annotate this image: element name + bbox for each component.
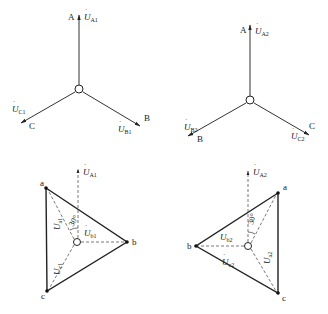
vertex-label-c: c <box>41 291 45 301</box>
dot-accent: · <box>221 226 223 234</box>
vertex-label-b: b <box>132 237 137 247</box>
vertex-b <box>194 244 198 248</box>
star-diagram-2: A UA2 · UB2 · B C UC2 · <box>184 20 315 144</box>
dot-accent: · <box>84 161 86 169</box>
phase-label-b: B <box>197 134 203 144</box>
vertex-b <box>125 240 129 244</box>
vertex-a <box>276 191 280 195</box>
vertex-c <box>276 291 280 295</box>
angle-arc <box>248 232 255 234</box>
vertex-c <box>45 289 49 293</box>
phasor-diagram: A UA1 · UC1 · C B UB1 · A UA2 · UB2 · B … <box>0 0 328 314</box>
delta-triangle-2 <box>196 193 278 293</box>
dot-accent: · <box>119 118 121 126</box>
dot-accent: · <box>13 98 15 106</box>
vertex-label-a: a <box>40 178 44 188</box>
phase-label-a: A <box>240 25 247 35</box>
vector-label-uc1-tri: Uc1 <box>52 263 63 275</box>
phase-label-c: C <box>29 121 35 131</box>
vector-label-ua1-tri: Ua1 <box>52 218 63 230</box>
phasor-c2-line <box>254 103 309 135</box>
dot-accent: · <box>223 251 225 259</box>
vertex-label-a: a <box>283 182 287 192</box>
dot-accent: · <box>256 20 258 28</box>
dot-accent: · <box>254 161 256 169</box>
vertex-label-c: c <box>282 293 286 303</box>
phasor-b1-line <box>83 92 140 126</box>
center-node-2 <box>245 243 252 250</box>
phase-label-a: A <box>68 12 75 22</box>
phasor-c1-line <box>21 92 75 123</box>
delta-diagram-1: UA1 · a b c Ua1 30° Ub1 · Uc1 <box>40 161 137 301</box>
dot-accent: · <box>85 222 87 230</box>
neutral-node-2 <box>246 96 254 104</box>
phase-label-c: C <box>309 121 315 131</box>
neutral-node-1 <box>75 85 83 93</box>
dot-accent: · <box>185 116 187 124</box>
angle-label: 30° <box>246 212 258 225</box>
dot-accent: · <box>85 6 87 14</box>
star-diagram-1: A UA1 · UC1 · C B UB1 · <box>12 6 150 135</box>
dot-accent: · <box>292 125 294 133</box>
phase-label-b: B <box>144 113 150 123</box>
vertex-label-b: b <box>187 241 192 251</box>
delta-diagram-2: UA2 · a b c 30° Ua2 Ub2 · Uc2 · <box>187 161 287 303</box>
vector-label-ua2-tri: Ua2 <box>262 252 273 264</box>
vertex-a <box>44 186 48 190</box>
center-node-1 <box>74 239 81 246</box>
